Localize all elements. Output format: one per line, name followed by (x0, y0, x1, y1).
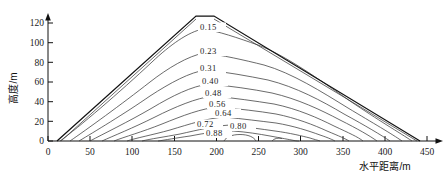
contour-label-0-88: 0.88 (206, 128, 223, 138)
contour-label-0-15: 0.15 (200, 22, 217, 32)
x-tick-group: 0 50 100 150 200 250 300 350 400 450 (46, 136, 435, 157)
y-tick-label-120: 120 (30, 18, 45, 28)
x-tick-label-200: 200 (209, 147, 224, 157)
contour-labels-group: 0.15 0.23 0.31 0.40 0.48 0.56 0.64 0.72 … (195, 22, 256, 138)
x-axis-arrowhead (436, 138, 444, 144)
x-tick-label-300: 300 (293, 147, 308, 157)
x-tick-label-450: 450 (420, 147, 435, 157)
embankment-inner-slope-line-left (61, 19, 196, 141)
contour-plot-svg: 0 20 40 60 80 100 120 0 50 100 150 200 2… (0, 0, 448, 174)
x-tick-label-0: 0 (46, 147, 51, 157)
x-tick-label-350: 350 (336, 147, 351, 157)
y-tick-label-40: 40 (35, 97, 45, 107)
x-tick-label-150: 150 (167, 147, 182, 157)
contour-label-0-23: 0.23 (200, 46, 217, 56)
y-tick-group: 0 20 40 60 80 100 120 (30, 18, 53, 146)
x-tick-label-250: 250 (251, 147, 266, 157)
y-axis-arrowhead (45, 13, 51, 21)
y-tick-label-20: 20 (35, 117, 45, 127)
x-tick-label-400: 400 (378, 147, 393, 157)
contour-chart-figure: 0 20 40 60 80 100 120 0 50 100 150 200 2… (0, 0, 448, 174)
contour-label-0-80: 0.80 (230, 121, 247, 131)
x-tick-label-100: 100 (125, 147, 140, 157)
x-axis-title: 水平距离/m (359, 160, 410, 172)
x-tick-label-50: 50 (85, 147, 95, 157)
y-tick-label-80: 80 (35, 58, 45, 68)
y-tick-label-60: 60 (35, 77, 45, 87)
contour-label-0-31: 0.31 (200, 63, 217, 73)
y-tick-label-0: 0 (39, 136, 44, 146)
contour-label-0-48: 0.48 (205, 88, 222, 98)
contour-label-0-40: 0.40 (202, 76, 219, 86)
contour-label-0-64: 0.64 (215, 108, 232, 118)
y-axis-title: 高度/m (7, 72, 19, 103)
y-tick-label-100: 100 (30, 38, 45, 48)
